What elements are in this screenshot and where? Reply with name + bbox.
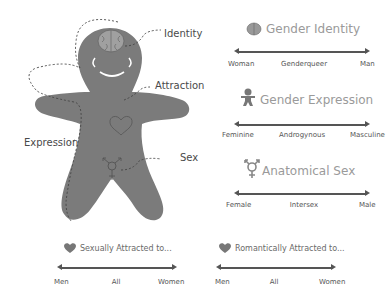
- sexually-attracted-title: Sexually Attracted to...: [80, 244, 172, 253]
- gingerbread-icon: [240, 88, 256, 106]
- gender-expression-title: Gender Expression: [260, 93, 373, 107]
- romantically-attracted-spectrum: Romantically Attracted to... Men All Wom…: [215, 240, 355, 290]
- label-all: All: [112, 278, 121, 286]
- heart-icon: [64, 243, 76, 254]
- gender-identity-axis: [237, 51, 367, 53]
- label-intersex: Intersex: [290, 201, 318, 209]
- romantically-attracted-axis: [219, 267, 333, 269]
- callout-expression: Expression: [24, 137, 78, 148]
- label-women: Women: [319, 278, 345, 286]
- callout-attraction: Attraction: [155, 80, 204, 91]
- anatomical-sex-title: Anatomical Sex: [262, 164, 355, 178]
- label-male: Male: [359, 201, 376, 209]
- label-androgynous: Androgynous: [279, 131, 325, 139]
- label-all: All: [270, 278, 279, 286]
- label-men: Men: [54, 278, 69, 286]
- gender-identity-title: Gender Identity: [266, 22, 360, 36]
- gender-expression-axis: [237, 124, 367, 126]
- gender-identity-spectrum: Gender Identity Woman Genderqueer Man: [232, 20, 372, 70]
- brain-icon: [246, 22, 262, 36]
- label-men: Men: [215, 278, 230, 286]
- label-woman: Woman: [228, 60, 254, 68]
- sexually-attracted-axis: [60, 267, 174, 269]
- label-female: Female: [226, 201, 251, 209]
- callout-identity: Identity: [164, 28, 202, 39]
- brain-icon: [98, 30, 124, 52]
- anatomical-sex-axis: [237, 193, 367, 195]
- label-feminine: Feminine: [222, 131, 254, 139]
- label-man: Man: [360, 60, 375, 68]
- transgender-symbol-icon: [242, 158, 262, 180]
- romantically-attracted-title: Romantically Attracted to...: [235, 244, 345, 253]
- anatomical-sex-spectrum: Anatomical Sex Female Intersex Male: [232, 158, 372, 208]
- sexually-attracted-spectrum: Sexually Attracted to... Men All Women: [50, 240, 190, 290]
- label-women: Women: [158, 278, 184, 286]
- label-genderqueer: Genderqueer: [281, 60, 327, 68]
- callout-sex: Sex: [180, 152, 198, 163]
- gender-expression-spectrum: Gender Expression Feminine Androgynous M…: [232, 88, 372, 138]
- gingerbread-body: [35, 28, 189, 220]
- label-masculine: Masculine: [350, 131, 385, 139]
- heart-icon: [219, 243, 231, 254]
